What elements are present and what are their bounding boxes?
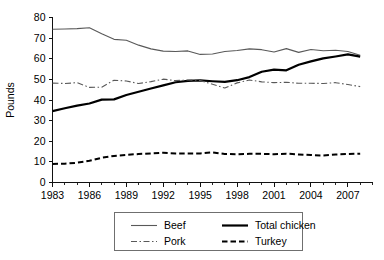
x-tick-label: 1989 — [115, 189, 139, 201]
y-tick-label: 10 — [34, 155, 46, 167]
x-tick-label: 1983 — [41, 189, 65, 201]
x-tick-label: 2007 — [336, 189, 360, 201]
y-tick-label: 30 — [34, 114, 46, 126]
x-tick-label: 1986 — [78, 189, 102, 201]
y-tick-label: 80 — [34, 11, 46, 23]
legend-label-turkey: Turkey — [255, 235, 287, 247]
legend-label-pork: Pork — [164, 235, 186, 247]
y-axis-ticks: 01020304050607080 — [34, 11, 53, 188]
series-line-turkey — [53, 152, 361, 164]
line-chart: 01020304050607080 1983198619891992199519… — [0, 0, 384, 260]
data-series-group — [53, 28, 361, 164]
legend-label-total-chicken: Total chicken — [255, 219, 316, 231]
series-line-total-chicken — [53, 54, 361, 111]
y-tick-label: 60 — [34, 52, 46, 64]
y-tick-label: 0 — [40, 176, 46, 188]
legend: BeefTotal chickenPorkTurkey — [115, 213, 316, 251]
x-tick-label: 2004 — [299, 189, 323, 201]
x-tick-label: 1995 — [189, 189, 213, 201]
x-tick-label: 1998 — [225, 189, 249, 201]
x-axis-ticks: 198319861989199219951998200120042007 — [41, 183, 360, 201]
x-tick-label: 1992 — [152, 189, 176, 201]
y-tick-label: 40 — [34, 94, 46, 106]
x-tick-label: 2001 — [262, 189, 286, 201]
y-tick-label: 20 — [34, 135, 46, 147]
legend-label-beef: Beef — [164, 219, 186, 231]
y-tick-label: 50 — [34, 73, 46, 85]
chart-canvas: 01020304050607080 1983198619891992199519… — [0, 0, 384, 260]
series-line-beef — [53, 28, 361, 55]
y-tick-label: 70 — [34, 32, 46, 44]
y-axis-title: Pounds — [4, 82, 16, 118]
